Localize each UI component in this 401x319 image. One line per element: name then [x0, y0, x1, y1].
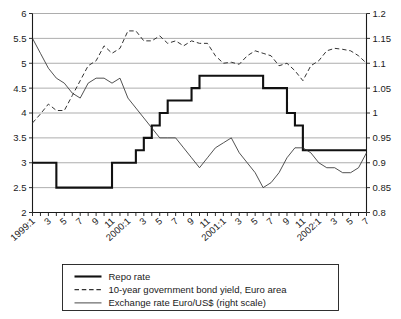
chart-legend: Repo rate10-year government bond yield, …	[63, 265, 339, 311]
left-axis-tick-label: 4.5	[13, 83, 26, 94]
left-axis-tick-label: 5.5	[13, 33, 26, 44]
left-axis-tick-label: 2	[21, 207, 26, 218]
right-axis-tick-label: 1.2	[373, 8, 386, 19]
right-axis-tick-label: 0.9	[373, 157, 386, 168]
left-axis-tick-label: 5	[21, 58, 26, 69]
left-axis-tick-label: 6	[21, 8, 26, 19]
interest-rate-exchange-rate-chart: 22.533.544.555.56 0.80.850.90.9511.051.1…	[0, 0, 401, 319]
right-axis-tick-label: 1.15	[373, 33, 392, 44]
right-axis-tick-label: 1.05	[373, 83, 392, 94]
left-axis-tick-label: 4	[21, 107, 26, 118]
left-axis-tick-label: 3	[21, 157, 26, 168]
legend-label-1: Repo rate	[109, 271, 151, 282]
right-axis-tick-label: 0.8	[373, 207, 386, 218]
chart-figure: 22.533.544.555.56 0.80.850.90.9511.051.1…	[0, 0, 401, 319]
right-axis-tick-label: 0.95	[373, 132, 392, 143]
legend-label-3: Exchange rate Euro/US$ (right scale)	[109, 297, 266, 308]
right-axis-tick-label: 1.1	[373, 58, 386, 69]
left-axis-tick-label: 2.5	[13, 182, 26, 193]
left-axis-tick-label: 3.5	[13, 132, 26, 143]
right-axis-tick-label: 1	[373, 107, 378, 118]
legend-label-2: 10-year government bond yield, Euro area	[109, 284, 288, 295]
right-axis-tick-label: 0.85	[373, 182, 392, 193]
